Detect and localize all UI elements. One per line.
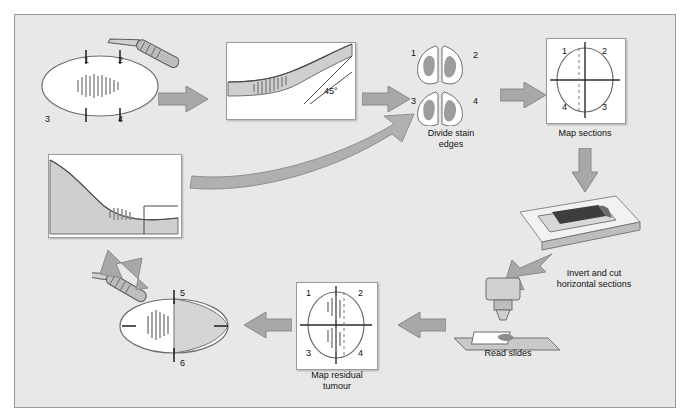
step6-microscope <box>448 276 566 354</box>
map-label-2: 2 <box>602 46 607 56</box>
step4-map-sections-drawing <box>546 38 624 122</box>
arrow-reexcision-to-woundbed <box>96 248 150 290</box>
arrow-read-to-residual-map <box>394 312 446 338</box>
reexcision-label-5: 5 <box>180 288 185 298</box>
specimen-label-1: 1 <box>84 55 89 65</box>
residual-label-4: 4 <box>358 348 363 358</box>
step1-specimen <box>28 34 188 134</box>
map-label-4: 4 <box>562 102 567 112</box>
wedge-label-4: 4 <box>473 96 478 106</box>
map-label-3: 3 <box>602 102 607 112</box>
arrow-divide-to-map <box>500 82 548 108</box>
caption-residual-line1: Map residual <box>282 370 392 381</box>
figure-canvas: 1 2 3 4 45° <box>0 0 691 420</box>
caption-residual-line2: tumour <box>282 381 392 392</box>
residual-label-2: 2 <box>358 288 363 298</box>
map-label-1: 1 <box>562 46 567 56</box>
residual-label-1: 1 <box>306 288 311 298</box>
reexcision-label-6: 6 <box>180 358 185 368</box>
arrow-specimen-to-excision <box>158 86 212 112</box>
wedge-label-2: 2 <box>473 50 478 60</box>
residual-label-3: 3 <box>306 348 311 358</box>
specimen-label-3: 3 <box>45 114 50 124</box>
step2-excision-drawing <box>226 42 354 118</box>
wedge-label-3: 3 <box>411 96 416 106</box>
specimen-label-2: 2 <box>118 55 123 65</box>
caption-read-slides: Read slides <box>450 348 566 359</box>
arrow-excision-to-divide <box>362 86 412 112</box>
scan-artifact <box>539 2 541 11</box>
wedge-label-1: 1 <box>411 48 416 58</box>
specimen-label-4: 4 <box>118 114 123 124</box>
angle-label: 45° <box>324 86 338 96</box>
caption-map-sections: Map sections <box>530 128 640 139</box>
step9-woundbed-drawing <box>48 154 180 236</box>
arrow-curved-woundbed-to-divide <box>178 112 418 198</box>
